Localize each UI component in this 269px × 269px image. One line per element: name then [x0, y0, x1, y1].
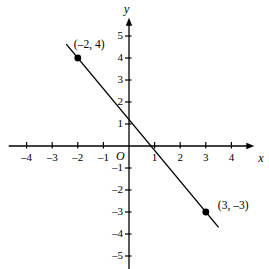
y-tick-label-2: 2 — [103, 96, 123, 107]
x-tick-label--3: –3 — [43, 152, 61, 163]
axes-group — [9, 18, 255, 269]
y-tick-label--5: –5 — [103, 250, 123, 261]
data-point-1 — [74, 55, 81, 62]
x-axis-arrowhead — [246, 143, 254, 149]
x-tick-label-2: 2 — [171, 152, 189, 163]
y-tick-label--2: –2 — [103, 184, 123, 195]
x-tick-label--4: –4 — [18, 152, 36, 163]
y-tick-label--3: –3 — [103, 206, 123, 217]
y-tick-label-3: 3 — [103, 74, 123, 85]
y-tick-label--4: –4 — [103, 228, 123, 239]
line-segment — [66, 44, 218, 227]
point-label-2: (3, –3) — [218, 200, 249, 212]
x-tick-label-4: 4 — [222, 152, 240, 163]
coordinate-plane-figure: –4–3–2–1123454321–1–2–3–4–5(–2, 4)(3, –3… — [0, 0, 269, 269]
point-label-1: (–2, 4) — [74, 39, 105, 51]
data-point-2 — [202, 209, 209, 216]
y-tick-label-4: 4 — [103, 52, 123, 63]
y-axis-label: y — [124, 3, 129, 15]
x-tick-label--2: –2 — [69, 152, 87, 163]
origin-label: O — [116, 150, 125, 162]
y-tick-label-1: 1 — [103, 118, 123, 129]
x-tick-label-3: 3 — [197, 152, 215, 163]
graph-canvas — [0, 0, 269, 269]
y-tick-label-5: 5 — [103, 30, 123, 41]
x-tick-label-1: 1 — [146, 152, 164, 163]
x-axis-label: x — [258, 152, 263, 164]
y-axis-arrowhead — [126, 18, 132, 26]
plotted-line — [66, 44, 218, 227]
y-tick-label--1: –1 — [103, 162, 123, 173]
